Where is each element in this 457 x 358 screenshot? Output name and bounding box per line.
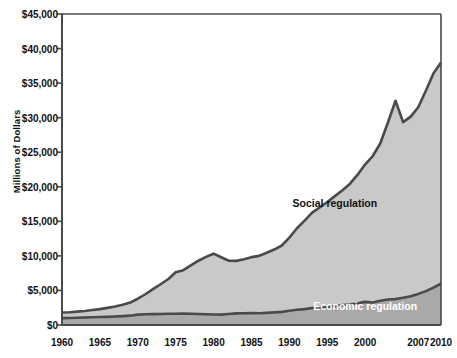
x-axis-tick-label: 1970: [127, 337, 149, 348]
y-axis-tick-label: $25,000: [22, 147, 58, 158]
y-axis-tick-label: $35,000: [22, 78, 58, 89]
social-regulation-area: [62, 62, 441, 318]
x-axis-tick-labels: 1960196519701975198019851990199520002007…: [0, 333, 457, 358]
x-axis-tick-label: 1985: [240, 337, 262, 348]
y-axis-tick-label: $10,000: [22, 250, 58, 261]
x-axis-tick-label: 2007: [407, 337, 429, 348]
y-axis-tick-label: $5,000: [27, 285, 58, 296]
x-axis-tick-label: 1990: [278, 337, 300, 348]
x-axis-tick-label: 1975: [165, 337, 187, 348]
regulatory-spending-area-chart: Millions of Dollars $0$5,000$10,000$15,0…: [0, 0, 457, 358]
y-axis-tick-label: $40,000: [22, 43, 58, 54]
y-axis-tick-label: $45,000: [22, 9, 58, 20]
y-axis-tick-labels: $0$5,000$10,000$15,000$20,000$25,000$30,…: [0, 0, 58, 358]
y-axis-tick-label: $0: [47, 320, 58, 331]
x-axis-tick-label: 1965: [89, 337, 111, 348]
y-axis-tick-label: $30,000: [22, 112, 58, 123]
plot-area: Social regulationEconomic regulation: [0, 0, 457, 358]
x-axis-tick-label: 1995: [316, 337, 338, 348]
x-axis-tick-label: 2000: [354, 337, 376, 348]
x-axis-tick-label: 1980: [202, 337, 224, 348]
x-axis-tick-label: 2010: [430, 337, 452, 348]
social-regulation-label: Social regulation: [293, 197, 378, 209]
y-axis-tick-label: $15,000: [22, 216, 58, 227]
economic-regulation-label: Economic regulation: [313, 300, 417, 312]
x-axis-tick-label: 1960: [51, 337, 73, 348]
y-axis-tick-label: $20,000: [22, 181, 58, 192]
